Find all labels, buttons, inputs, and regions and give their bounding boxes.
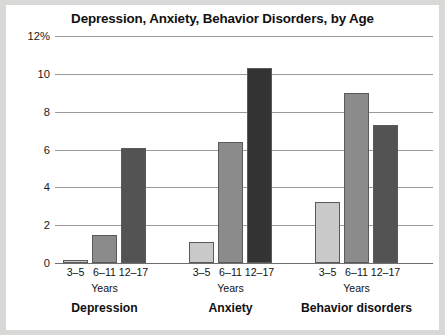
bar-depression-6-11: [92, 235, 117, 263]
age-label-anxiety-0: 3–5: [193, 266, 211, 278]
bar-behavior-disorders-12-17: [373, 125, 398, 263]
bar-behavior-disorders-3-5: [315, 202, 340, 263]
y-tick-label-8: 8: [6, 106, 50, 118]
chart-title: Depression, Anxiety, Behavior Disorders,…: [6, 11, 439, 26]
age-label-depression-1: 6–11: [93, 266, 116, 278]
gridline-12: [55, 36, 433, 37]
bar-depression-12-17: [121, 148, 146, 263]
years-caption-2: Years: [343, 282, 370, 294]
x-axis-labels: 3–56–1112–17YearsDepression3–56–1112–17Y…: [55, 264, 433, 326]
y-tick-label-2: 2: [6, 219, 50, 231]
age-label-anxiety-1: 6–11: [219, 266, 242, 278]
bar-anxiety-12-17: [247, 68, 272, 263]
y-tick-label-4: 4: [6, 181, 50, 193]
age-label-behavior-disorders-2: 12–17: [371, 266, 400, 278]
group-label-anxiety: Anxiety: [208, 301, 252, 315]
plot-area: [55, 36, 433, 263]
chart-card: Depression, Anxiety, Behavior Disorders,…: [6, 5, 439, 330]
age-label-depression-2: 12–17: [119, 266, 148, 278]
age-label-behavior-disorders-1: 6–11: [345, 266, 368, 278]
y-tick-label-6: 6: [6, 144, 50, 156]
age-label-anxiety-2: 12–17: [245, 266, 274, 278]
bar-behavior-disorders-6-11: [344, 93, 369, 263]
y-axis-tick-labels: 12%1086420: [6, 36, 50, 263]
group-label-behavior-disorders: Behavior disorders: [301, 301, 412, 315]
years-caption-1: Years: [217, 282, 244, 294]
years-caption-0: Years: [91, 282, 118, 294]
y-tick-label-12: 12%: [6, 30, 50, 42]
bar-depression-3-5: [63, 260, 88, 263]
bar-anxiety-6-11: [218, 142, 243, 263]
group-label-depression: Depression: [71, 301, 137, 315]
age-label-depression-0: 3–5: [67, 266, 85, 278]
bar-anxiety-3-5: [189, 242, 214, 263]
y-tick-label-10: 10: [6, 68, 50, 80]
y-tick-label-0: 0: [6, 257, 50, 269]
gridline-10: [55, 74, 433, 75]
gridline-8: [55, 112, 433, 113]
age-label-behavior-disorders-0: 3–5: [319, 266, 337, 278]
